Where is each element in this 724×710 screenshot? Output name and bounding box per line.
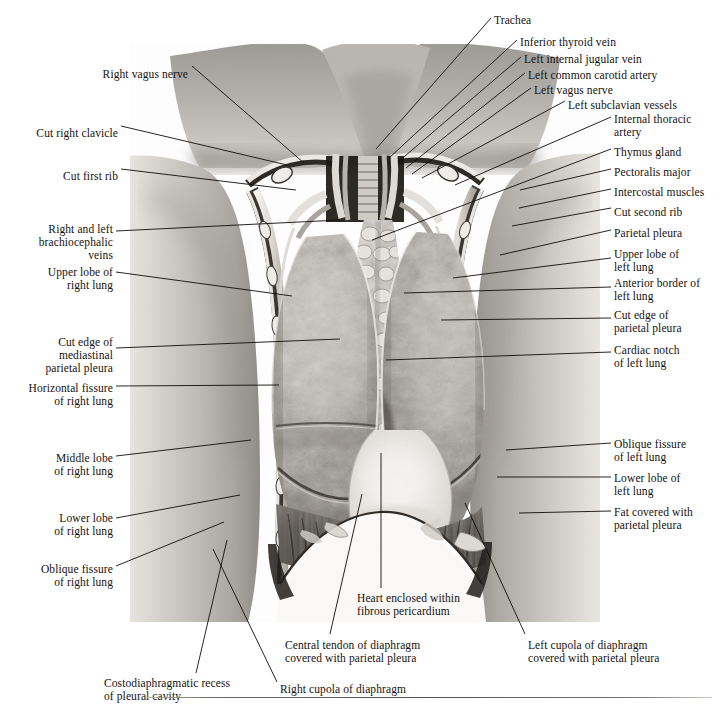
label-oblique-fissure-of-left-lung: Oblique fissure of left lung [614,438,686,464]
label-trachea: Trachea [494,14,531,27]
thorax-dissection-photo [130,44,600,622]
label-right-vagus-nerve: Right vagus nerve [103,68,188,81]
footer-rule [146,697,712,698]
label-left-common-carotid-artery: Left common carotid artery [528,69,657,82]
label-horizontal-fissure-of-right-lung: Horizontal fissure of right lung [28,382,113,408]
label-internal-thoracic-artery: Internal thoracic artery [614,113,691,139]
label-cut-edge-of-mediastinal-parietal-pleura: Cut edge of mediastinal parietal pleura [45,336,113,376]
label-thymus-gland: Thymus gland [614,146,681,159]
label-upper-lobe-of-right-lung: Upper lobe of right lung [48,266,113,292]
label-pectoralis-major: Pectoralis major [614,166,691,179]
label-middle-lobe-of-right-lung: Middle lobe of right lung [54,452,113,478]
label-right-cupola-of-diaphragm: Right cupola of diaphragm [280,683,406,696]
label-left-vagus-nerve: Left vagus nerve [534,84,613,97]
label-lower-lobe-of-left-lung: Lower lobe of left lung [614,472,680,498]
label-anterior-border-of-left-lung: Anterior border of left lung [614,277,700,303]
label-left-cupola-of-diaphragm: Left cupola of diaphragm covered with pa… [528,639,659,665]
label-central-tendon-of-diaphragm: Central tendon of diaphragm covered with… [285,639,420,665]
anatomical-plate: Right vagus nerveCut right clavicleCut f… [0,0,724,710]
label-cut-second-rib: Cut second rib [614,206,682,219]
label-left-subclavian-vessels: Left subclavian vessels [568,99,677,112]
label-upper-lobe-of-left-lung: Upper lobe of left lung [614,248,679,274]
label-heart-enclosed-within-fibrous-pericardium: Heart enclosed within fibrous pericardiu… [357,592,460,618]
label-left-internal-jugular-vein: Left internal jugular vein [524,53,642,66]
label-cardiac-notch-of-left-lung: Cardiac notch of left lung [614,344,679,370]
label-intercostal-muscles: Intercostal muscles [614,186,704,199]
label-cut-right-clavicle: Cut right clavicle [36,127,118,140]
label-lower-lobe-of-right-lung: Lower lobe of right lung [54,512,113,538]
label-inferior-thyroid-vein: Inferior thyroid vein [520,36,616,49]
label-cut-first-rib: Cut first rib [63,170,118,183]
label-parietal-pleura: Parietal pleura [614,227,682,240]
label-oblique-fissure-of-right-lung: Oblique fissure of right lung [41,563,113,589]
label-fat-covered-with-parietal-pleura: Fat covered with parietal pleura [614,506,693,532]
label-costodiaphragmatic-recess-of-pleural-cavity: Costodiaphragmatic recess of pleural cav… [104,677,230,703]
label-right-and-left-brachiocephalic-veins: Right and left brachiocephalic veins [39,223,113,263]
label-cut-edge-of-parietal-pleura: Cut edge of parietal pleura [614,309,682,335]
